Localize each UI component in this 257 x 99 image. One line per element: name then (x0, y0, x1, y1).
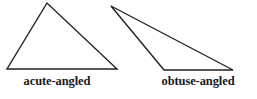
acute-angled-label: acute-angled (24, 74, 91, 89)
acute-triangle-shape (7, 3, 117, 69)
obtuse-angled-label: obtuse-angled (161, 74, 234, 89)
obtuse-triangle-shape (111, 6, 233, 70)
